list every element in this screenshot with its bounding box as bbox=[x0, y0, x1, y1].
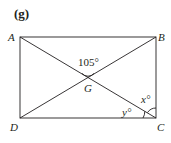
vertex-label-a: A bbox=[7, 31, 15, 43]
part-label: (g) bbox=[14, 6, 29, 21]
angle-label-105: 105° bbox=[78, 56, 99, 68]
angle-label-y: y° bbox=[121, 106, 132, 118]
vertex-label-d: D bbox=[9, 121, 18, 133]
vertex-label-c: C bbox=[157, 121, 165, 133]
angle-arc-y bbox=[143, 111, 145, 118]
angle-arc-agb bbox=[82, 74, 94, 77]
angle-label-x: x° bbox=[140, 93, 151, 105]
angle-arc-x bbox=[148, 108, 157, 113]
vertex-label-b: B bbox=[158, 31, 165, 43]
intersection-label-g: G bbox=[84, 82, 92, 94]
geometry-figure: (g) A B C D G 105° x° y° bbox=[0, 0, 171, 143]
